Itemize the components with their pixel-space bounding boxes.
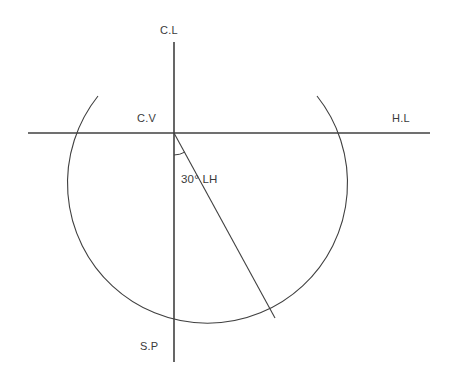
sight-line-30-degrees	[174, 133, 275, 318]
label-angle-30-lh: 30° LH	[181, 174, 218, 186]
label-center-of-vision: C.V	[137, 113, 156, 124]
label-station-point: S.P	[140, 341, 158, 352]
angle-arc-marker	[174, 152, 185, 155]
label-horizon-line: H.L	[392, 113, 410, 124]
diagram-canvas	[0, 0, 453, 378]
perspective-diagram: C.L C.V H.L S.P 30° LH	[0, 0, 453, 378]
label-center-line: C.L	[160, 25, 178, 36]
circle-of-vision	[68, 96, 348, 323]
